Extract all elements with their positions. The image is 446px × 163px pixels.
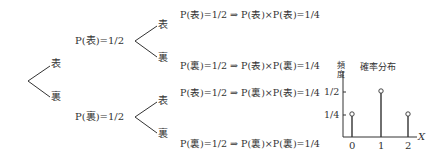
tails-fork [135, 102, 157, 133]
tails-heads-branch: 表 [158, 95, 168, 107]
tails-tails-branch: 裏 [158, 128, 168, 140]
heads-heads-branch: 表 [158, 19, 168, 31]
outcome-heads-heads: P(表)=1/2 ⇒ P(表)×P(表)=1/4 [180, 9, 320, 21]
xtick-2: 2 [405, 140, 411, 152]
xtick-0: 0 [349, 140, 355, 152]
root-branch-heads: 表 [51, 58, 61, 70]
ytick-half: 1/2 [324, 86, 339, 98]
chart-ylabel: 頻度 [337, 61, 346, 79]
root-branch-tails: 裏 [51, 91, 61, 103]
xtick-1: 1 [378, 140, 384, 152]
heads-prob-label: P(表)=1/2 [75, 35, 124, 47]
outcome-tails-tails: P(裏)=1/2 ⇒ P(裏)×P(裏)=1/4 [180, 138, 320, 150]
root-fork [28, 66, 50, 97]
heads-tails-branch: 裏 [158, 52, 168, 64]
outcome-tails-heads: P(表)=1/2 ⇒ P(裏)×P(表)=1/4 [180, 87, 320, 99]
tails-prob-label: P(裏)=1/2 [75, 111, 124, 123]
chart-title: 確率分布 [360, 61, 396, 73]
chart-stems [350, 89, 410, 137]
chart-xlabel: X [418, 131, 425, 143]
ytick-quarter: 1/4 [324, 109, 339, 121]
chart-axes [343, 71, 417, 137]
heads-fork [135, 26, 157, 57]
outcome-heads-tails: P(裏)=1/2 ⇒ P(表)×P(裏)=1/4 [180, 60, 320, 72]
